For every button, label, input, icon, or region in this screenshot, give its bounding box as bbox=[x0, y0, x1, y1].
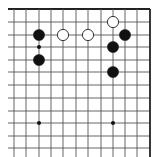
go-board-diagram bbox=[0, 0, 156, 157]
white-stone bbox=[57, 29, 68, 40]
small-dot-mark bbox=[37, 45, 41, 49]
black-stone bbox=[33, 29, 44, 40]
marks bbox=[37, 45, 41, 49]
white-stone bbox=[82, 29, 93, 40]
black-stone bbox=[107, 66, 118, 77]
star-point bbox=[111, 121, 115, 125]
star-point bbox=[37, 121, 41, 125]
white-stone bbox=[107, 16, 118, 27]
black-stone bbox=[119, 29, 130, 40]
black-stone bbox=[33, 54, 44, 65]
black-stone bbox=[107, 41, 118, 52]
